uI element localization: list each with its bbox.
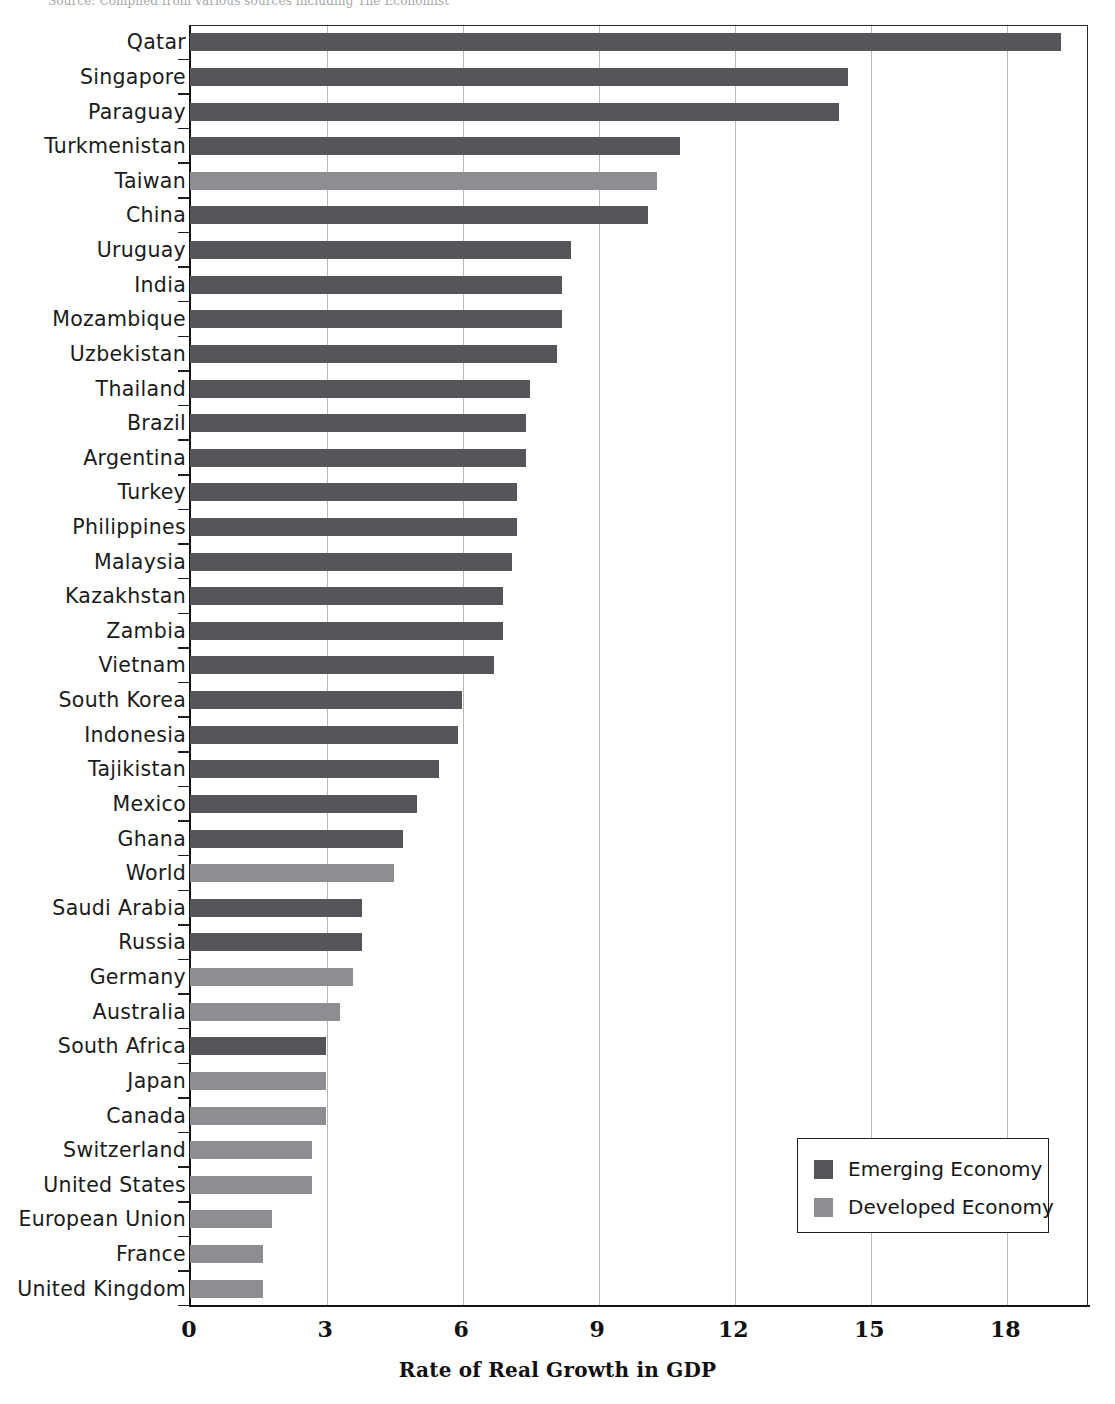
bar-row: Uzbekistan <box>0 337 1115 372</box>
bar-tajikistan <box>190 760 439 778</box>
category-label-mozambique: Mozambique <box>52 307 186 331</box>
bar-row: South Africa <box>0 1029 1115 1064</box>
bar-turkmenistan <box>190 137 680 155</box>
legend-swatch-emerging-icon <box>814 1160 833 1179</box>
legend-label-emerging: Emerging Economy <box>848 1157 1042 1181</box>
bar-philippines <box>190 518 517 536</box>
legend-item-emerging: Emerging Economy <box>814 1150 1048 1188</box>
bar-germany <box>190 968 353 986</box>
category-label-tajikistan: Tajikistan <box>88 757 186 781</box>
category-label-india: India <box>134 273 186 297</box>
bar-rows: QatarSingaporeParaguayTurkmenistanTaiwan… <box>0 25 1115 1306</box>
bar-world <box>190 864 394 882</box>
category-label-uruguay: Uruguay <box>97 238 186 262</box>
bar-row: Indonesia <box>0 717 1115 752</box>
category-label-malaysia: Malaysia <box>94 550 186 574</box>
category-label-kazakhstan: Kazakhstan <box>65 584 186 608</box>
category-label-china: China <box>126 203 186 227</box>
bar-row: Kazakhstan <box>0 579 1115 614</box>
category-label-switzerland: Switzerland <box>63 1138 186 1162</box>
bar-row: World <box>0 856 1115 891</box>
bar-row: Saudi Arabia <box>0 891 1115 926</box>
category-label-qatar: Qatar <box>127 30 186 54</box>
category-label-turkey: Turkey <box>117 480 186 504</box>
x-tick-label-3: 3 <box>317 1316 332 1342</box>
x-axis-label: Rate of Real Growth in GDP <box>0 1358 1115 1382</box>
category-label-argentina: Argentina <box>83 446 186 470</box>
category-label-paraguay: Paraguay <box>88 100 186 124</box>
bar-south-africa <box>190 1037 326 1055</box>
category-label-japan: Japan <box>127 1069 186 1093</box>
category-label-australia: Australia <box>93 1000 186 1024</box>
bar-mozambique <box>190 310 562 328</box>
bar-taiwan <box>190 172 657 190</box>
bar-row: Zambia <box>0 614 1115 649</box>
bar-row: Uruguay <box>0 233 1115 268</box>
legend-label-developed: Developed Economy <box>848 1195 1054 1219</box>
x-tick-label-18: 18 <box>990 1316 1021 1342</box>
bar-argentina <box>190 449 526 467</box>
bar-australia <box>190 1003 340 1021</box>
bar-row: Mexico <box>0 787 1115 822</box>
category-label-saudi-arabia: Saudi Arabia <box>52 896 186 920</box>
x-tick-label-6: 6 <box>453 1316 468 1342</box>
bar-japan <box>190 1072 326 1090</box>
bar-saudi-arabia <box>190 899 362 917</box>
bar-row: Qatar <box>0 25 1115 60</box>
bar-row: Paraguay <box>0 94 1115 129</box>
bar-row: France <box>0 1237 1115 1272</box>
bar-row: Malaysia <box>0 544 1115 579</box>
bar-vietnam <box>190 656 494 674</box>
x-tick-label-12: 12 <box>718 1316 749 1342</box>
bar-zambia <box>190 622 503 640</box>
category-label-united-states: United States <box>43 1173 186 1197</box>
bar-row: Germany <box>0 960 1115 995</box>
legend-item-developed: Developed Economy <box>814 1188 1048 1226</box>
bar-row: Japan <box>0 1064 1115 1099</box>
bar-kazakhstan <box>190 587 503 605</box>
bar-row: India <box>0 267 1115 302</box>
category-label-philippines: Philippines <box>72 515 186 539</box>
bar-row: Tajikistan <box>0 752 1115 787</box>
bar-row: Mozambique <box>0 302 1115 337</box>
bar-row: China <box>0 198 1115 233</box>
bar-row: Philippines <box>0 510 1115 545</box>
x-tick-label-0: 0 <box>181 1316 196 1342</box>
category-label-world: World <box>126 861 186 885</box>
bar-malaysia <box>190 553 512 571</box>
category-label-indonesia: Indonesia <box>84 723 186 747</box>
bar-row: Canada <box>0 1098 1115 1133</box>
category-label-germany: Germany <box>90 965 186 989</box>
category-label-uzbekistan: Uzbekistan <box>70 342 186 366</box>
bar-row: Brazil <box>0 406 1115 441</box>
bar-row: Ghana <box>0 821 1115 856</box>
bar-row: Turkmenistan <box>0 129 1115 164</box>
category-label-thailand: Thailand <box>96 377 186 401</box>
bar-qatar <box>190 33 1061 51</box>
bar-united-states <box>190 1176 312 1194</box>
bar-indonesia <box>190 726 458 744</box>
bar-row: Vietnam <box>0 648 1115 683</box>
bar-row: Singapore <box>0 60 1115 95</box>
category-label-france: France <box>116 1242 186 1266</box>
bar-row: Thailand <box>0 371 1115 406</box>
bar-row: South Korea <box>0 683 1115 718</box>
category-label-mexico: Mexico <box>113 792 186 816</box>
category-label-singapore: Singapore <box>80 65 186 89</box>
bar-turkey <box>190 483 517 501</box>
bar-united-kingdom <box>190 1280 263 1298</box>
bar-uzbekistan <box>190 345 557 363</box>
bar-european-union <box>190 1210 272 1228</box>
bar-row: Australia <box>0 994 1115 1029</box>
legend-swatch-developed-icon <box>814 1198 833 1217</box>
bar-china <box>190 206 648 224</box>
category-label-zambia: Zambia <box>106 619 186 643</box>
category-label-ghana: Ghana <box>118 827 187 851</box>
y-axis-tick <box>178 1305 189 1307</box>
category-label-brazil: Brazil <box>127 411 186 435</box>
bar-canada <box>190 1107 326 1125</box>
bar-thailand <box>190 380 530 398</box>
bar-brazil <box>190 414 526 432</box>
bar-row: Argentina <box>0 440 1115 475</box>
bar-ghana <box>190 830 403 848</box>
